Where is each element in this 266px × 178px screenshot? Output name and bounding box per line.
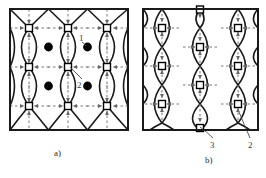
- lattice-diagram-svg: [0, 0, 266, 178]
- figure-container: 1 2 3 2 a) b): [0, 0, 266, 178]
- callout-label-2-panel-b: 2: [248, 140, 253, 150]
- panel-a: [10, 9, 128, 130]
- panel-caption-b: b): [205, 155, 213, 165]
- callout-label-1: 1: [79, 33, 84, 43]
- panel-b: [143, 6, 258, 138]
- callout-label-3-panel-b: 3: [210, 140, 215, 150]
- panel-caption-a: a): [54, 148, 61, 158]
- callout-label-2-panel-a: 2: [77, 80, 82, 90]
- panel-b-open-squares: [159, 6, 242, 132]
